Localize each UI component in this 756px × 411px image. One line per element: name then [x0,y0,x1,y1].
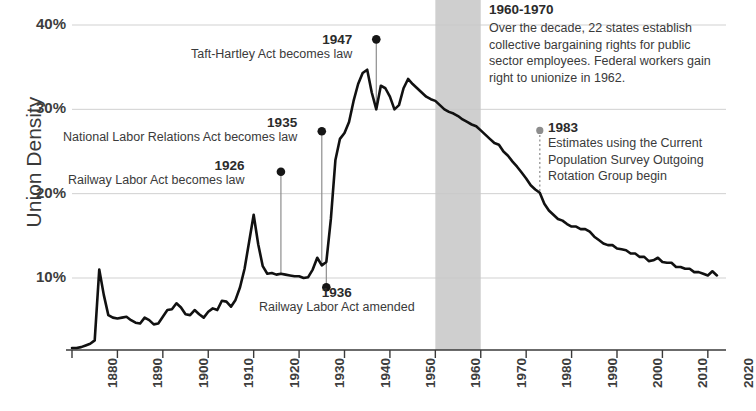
x-tick-label-1950: 1950 [423,358,438,411]
annotation-1936: 1936 Railway Labor Act amended [259,285,415,315]
y-tick-label-10: 10% [18,268,66,285]
annotation-1926: 1926 Railway Labor Act becomes law [68,158,244,188]
x-tick-label-1960: 1960 [468,358,483,411]
annotation-band-line-2: collective bargaining rights for public [489,37,729,54]
annotation-1983-title: 1983 [548,120,704,135]
x-tick-label-1930: 1930 [332,358,347,411]
annotation-1983-line-3: Rotation Group begin [548,168,704,185]
y-tick-label-20: 20% [18,184,66,201]
y-tick-label-30: 30% [18,99,66,116]
x-tick-label-1890: 1890 [150,358,165,411]
x-tick-label-1900: 1900 [196,358,211,411]
annotation-marker-1926 [277,167,286,176]
annotation-marker-1983 [536,127,543,134]
shaded-band-1960-1970 [435,0,480,350]
annotation-1983-body: Estimates using the CurrentPopulation Su… [548,135,704,185]
annotation-band-1960-1970: 1960-1970 Over the decade, 22 states est… [489,2,729,86]
y-axis-title: Union Density [22,52,46,272]
annotation-1935-text: National Labor Relations Act becomes law [63,130,297,144]
annotation-1936-year: 1936 [259,285,415,300]
annotation-1983-line-1: Estimates using the Current [548,135,704,152]
annotation-band-line-1: Over the decade, 22 states establish [489,20,729,37]
annotation-1947-text: Taft-Hartley Act becomes law [191,47,352,61]
x-tick-label-1910: 1910 [241,358,256,411]
x-tick-label-2020: 2020 [741,358,756,411]
x-tick-label-1880: 1880 [105,358,120,411]
annotation-1947-year: 1947 [191,32,352,47]
annotation-1936-text: Railway Labor Act amended [259,300,415,314]
annotation-band-line-3: sector employees. Federal workers gain [489,53,729,70]
annotation-band-title: 1960-1970 [489,2,729,17]
annotation-marker-1947 [372,35,381,44]
x-tick-label-1990: 1990 [605,358,620,411]
annotation-band-body: Over the decade, 22 states establishcoll… [489,20,729,86]
x-tick-label-1970: 1970 [514,358,529,411]
y-tick-label-40: 40% [18,15,66,32]
annotation-1935-year: 1935 [63,115,297,130]
x-tick-label-1980: 1980 [559,358,574,411]
annotation-1983: 1983 Estimates using the CurrentPopulati… [548,120,704,185]
annotation-1947: 1947 Taft-Hartley Act becomes law [191,32,352,62]
annotation-1935: 1935 National Labor Relations Act become… [63,115,297,145]
annotation-1926-year: 1926 [68,158,244,173]
annotation-1926-text: Railway Labor Act becomes law [68,173,244,187]
x-tick-label-1920: 1920 [287,358,302,411]
x-tick-label-2010: 2010 [695,358,710,411]
annotation-1983-line-2: Population Survey Outgoing [548,152,704,169]
x-tick-label-2000: 2000 [650,358,665,411]
annotation-band-line-4: right to unionize in 1962. [489,70,729,87]
annotation-marker-1935 [317,127,326,136]
x-tick-label-1940: 1940 [378,358,393,411]
